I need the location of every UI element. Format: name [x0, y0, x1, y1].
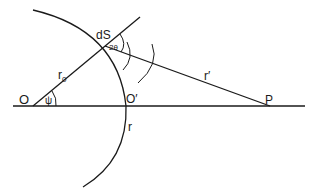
- wavefront-diagram: dS 2θ r0 O ψ O′ r r′ P: [0, 0, 312, 193]
- label-origin: O: [19, 92, 29, 107]
- angle-arc-2theta: [120, 34, 124, 52]
- label-angle-psi: ψ: [45, 95, 52, 106]
- label-surface-element: dS: [96, 28, 111, 42]
- label-radius-r0: r0: [58, 68, 67, 84]
- label-radius-r-prime: r′: [204, 69, 211, 83]
- label-point-p: P: [265, 93, 273, 107]
- angle-arc-psi: [52, 91, 56, 106]
- label-radius-r: r: [128, 120, 132, 134]
- label-origin-prime: O′: [126, 92, 138, 106]
- label-r0-subscript: 0: [62, 75, 67, 84]
- label-angle-2theta: 2θ: [109, 43, 118, 52]
